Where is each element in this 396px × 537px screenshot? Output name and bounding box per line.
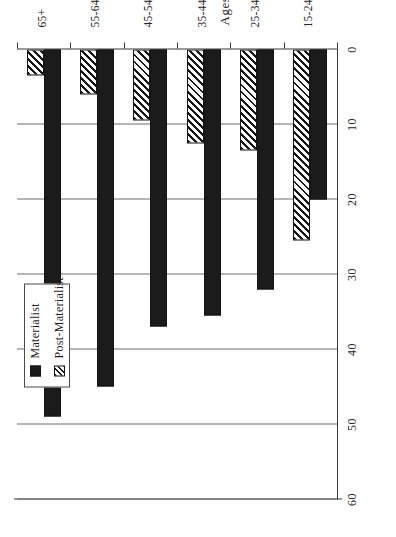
category-tick-1: [70, 42, 71, 48]
chart-legend: Materialist Post-Materialist: [24, 283, 70, 387]
category-tick-4: [230, 42, 231, 48]
bar-materialist-25-34: [257, 49, 274, 289]
category-label-55-64: 55-64: [89, 0, 101, 27]
category-tick-5: [284, 42, 285, 48]
category-axis-line: [337, 48, 338, 499]
bar-post-materialist-65+: [27, 49, 44, 75]
bar-post-materialist-25-34: [240, 49, 257, 150]
value-tick-label-50: 50: [345, 418, 360, 431]
bar-materialist-45-54: [150, 49, 167, 327]
bar-post-materialist-35-44: [187, 49, 204, 143]
legend-label-post-materialist: Post-Materialist: [52, 277, 67, 358]
rotated-figure-wrapper: 0102030405060 65+55-6445-5435-4425-3415-…: [0, 0, 396, 537]
solid-black-swatch-icon: [30, 365, 41, 376]
value-tick-label-0: 0: [345, 46, 360, 52]
bar-post-materialist-45-54: [133, 49, 150, 120]
category-tick-2: [124, 42, 125, 48]
category-tick-3: [177, 42, 178, 48]
legend-entry-materialist: Materialist: [28, 294, 43, 376]
value-tick-label-60: 60: [345, 493, 360, 506]
category-axis-title: Ages: [217, 0, 233, 25]
value-tick-label-40: 40: [345, 343, 360, 356]
value-tick-label-30: 30: [345, 268, 360, 281]
category-label-15-24: 15-24: [302, 0, 314, 27]
category-axis-end-tick-0: [17, 42, 18, 48]
category-label-35-44: 35-44: [196, 0, 208, 27]
hatched-swatch-icon: [54, 365, 65, 376]
category-axis-end-tick-1: [337, 42, 338, 48]
bar-materialist-15-24: [310, 49, 327, 199]
value-tick-label-20: 20: [345, 193, 360, 206]
bar-chart-figure: 0102030405060 65+55-6445-5435-4425-3415-…: [0, 0, 396, 537]
category-label-25-34: 25-34: [249, 0, 261, 27]
category-label-45-54: 45-54: [142, 0, 154, 27]
bar-post-materialist-55-64: [80, 49, 97, 94]
value-tick-label-10: 10: [345, 118, 360, 131]
category-label-65+: 65+: [36, 8, 48, 27]
legend-entry-post-materialist: Post-Materialist: [52, 294, 67, 376]
bar-materialist-55-64: [97, 49, 114, 387]
plot-area: [17, 49, 337, 499]
legend-label-materialist: Materialist: [28, 303, 43, 358]
bar-materialist-35-44: [204, 49, 221, 315]
bar-post-materialist-15-24: [293, 49, 310, 240]
